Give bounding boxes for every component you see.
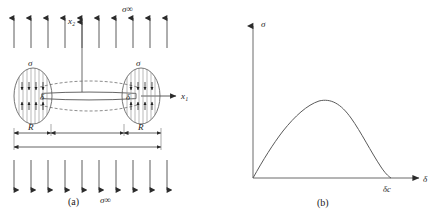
left-zone-upper-arrows — [22, 82, 43, 90]
label-cohesive-stress-left: σ — [28, 58, 33, 68]
chart-axes: σ δ — [253, 19, 428, 184]
dimension-lines: R R — [14, 122, 161, 150]
figure-root: σ∞ x₂ x₁ — [0, 0, 434, 213]
caption-panel-b: (b) — [317, 197, 329, 209]
vertical-axis-x2: x₂ — [67, 16, 82, 96]
right-cohesive-zone: σ δ — [122, 58, 160, 124]
label-axis-x1: x₁ — [180, 91, 188, 101]
left-zone-lower-arrows — [22, 102, 43, 110]
label-cohesive-stress-right: σ — [136, 58, 141, 68]
bottom-remote-stress-field: σ∞ — [14, 160, 167, 205]
label-y-axis-sigma: σ — [261, 19, 266, 29]
traction-separation-curve — [253, 100, 391, 178]
label-remote-stress-bottom: σ∞ — [100, 195, 111, 205]
top-field-arrows — [14, 18, 167, 48]
right-zone-upper-arrows — [131, 82, 152, 90]
dashed-crack-upper — [40, 81, 137, 87]
left-cohesive-zone: σ δ — [14, 58, 52, 124]
label-zone-length-right: R — [137, 122, 144, 132]
panel-b-canvas: σ δ δc (b) — [215, 0, 434, 213]
label-x-axis-delta: δ — [423, 174, 428, 184]
panel-b-traction-separation-chart: σ δ δc (b) — [215, 0, 434, 213]
caption-panel-a: (a) — [68, 196, 79, 208]
label-axis-x2: x₂ — [67, 16, 75, 26]
cohesive-law-curve — [253, 100, 391, 178]
bottom-field-arrows — [14, 160, 167, 190]
right-zone-lower-arrows — [131, 102, 152, 110]
label-zone-length-left: R — [27, 122, 34, 132]
dashed-crack-lower — [40, 105, 137, 111]
label-remote-stress-top: σ∞ — [122, 4, 133, 14]
panel-a-crack-model: σ∞ x₂ x₁ — [0, 0, 215, 213]
top-remote-stress-field: σ∞ — [14, 4, 167, 48]
horizontal-axis-x1: x₁ — [141, 91, 188, 101]
label-critical-separation: δc — [383, 184, 391, 194]
panel-a-canvas: σ∞ x₂ x₁ — [0, 0, 215, 213]
crack-opening-shape — [40, 81, 137, 111]
